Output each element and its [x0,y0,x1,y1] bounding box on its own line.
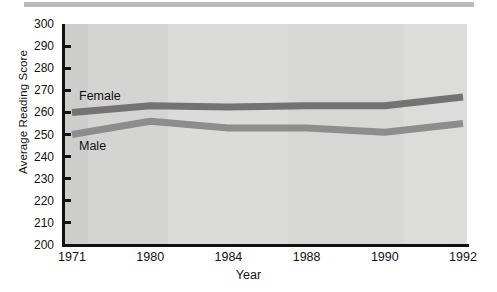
series-line-female [72,97,463,113]
series-label-female: Female [79,89,121,103]
data-series-lines [0,0,497,292]
series-label-male: Male [79,139,106,153]
reading-score-line-chart: 300290280270260250240230220210200 Averag… [0,0,497,292]
series-line-male [72,121,463,134]
